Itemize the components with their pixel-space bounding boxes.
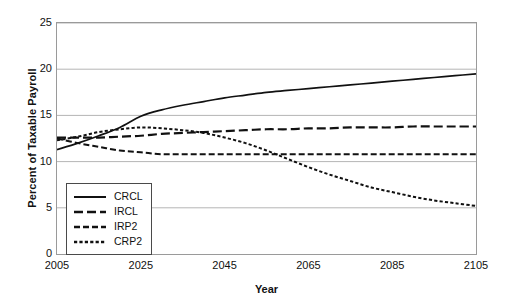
- legend-swatch-crp2: [73, 236, 107, 247]
- y-tick-label: 5: [6, 201, 52, 213]
- x-tick-label: 2005: [27, 259, 87, 271]
- legend-swatch-crcl: [73, 191, 107, 202]
- y-tick-label: 25: [6, 16, 52, 28]
- x-axis-title: Year: [56, 283, 477, 295]
- x-tick-label: 2065: [278, 259, 338, 271]
- legend-label: CRCL: [114, 191, 143, 202]
- x-tick-label: 2045: [195, 259, 255, 271]
- legend-swatch-irp2: [73, 221, 107, 232]
- legend-item-irp2: IRP2: [73, 219, 143, 234]
- legend-label: IRP2: [114, 221, 137, 232]
- legend-label: IRCL: [114, 206, 138, 217]
- x-tick-label: 2085: [362, 259, 422, 271]
- x-tick-label: 2105: [446, 259, 506, 271]
- legend-label: CRP2: [114, 236, 142, 247]
- gridlines: [57, 23, 476, 208]
- series-line-crcl: [57, 74, 476, 150]
- legend-swatch-ircl: [73, 206, 107, 217]
- legend-item-crcl: CRCL: [73, 189, 143, 204]
- chart-figure: Percent of Taxable Payroll 0510152025 20…: [0, 0, 512, 306]
- x-tick-label: 2025: [111, 259, 171, 271]
- y-tick-label: 10: [6, 155, 52, 167]
- legend-item-ircl: IRCL: [73, 204, 143, 219]
- y-tick-label: 20: [6, 62, 52, 74]
- legend-item-crp2: CRP2: [73, 234, 143, 249]
- y-tick-label: 15: [6, 108, 52, 120]
- legend: CRCLIRCLIRP2CRP2: [66, 183, 152, 255]
- y-tick-label: 0: [6, 247, 52, 259]
- series-line-irp2: [57, 139, 476, 155]
